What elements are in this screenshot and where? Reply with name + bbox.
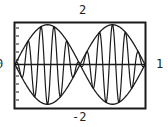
- lower-envelope-curve: [15, 65, 145, 105]
- upper-envelope-curve: [15, 25, 145, 65]
- plot-area: [0, 0, 168, 127]
